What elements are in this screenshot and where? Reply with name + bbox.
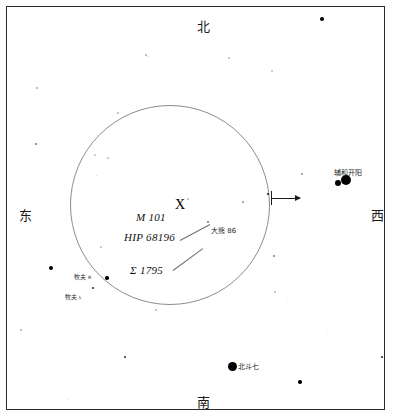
annotation-label-bootes-kappa: 牧夫 κ <box>74 274 91 280</box>
cardinal-label-south: 南 <box>197 396 210 409</box>
star-dot <box>301 173 303 175</box>
star-dot <box>122 400 123 401</box>
annotation-label-alcor-mizar: 辅和开阳 <box>334 170 362 177</box>
object-label-m101: M 101 <box>136 212 166 223</box>
star-dot <box>100 246 101 247</box>
star-chart: 北 东 西 南 M 101 HIP 68196 Σ 1795 X 大熊 86辅和… <box>0 0 395 419</box>
star-dot <box>94 154 95 155</box>
star-dot <box>335 180 341 186</box>
star-dot <box>147 56 148 57</box>
drift-arrow-tick <box>271 191 272 205</box>
star-dot <box>273 255 275 257</box>
star-dot <box>320 17 324 21</box>
star-dot <box>271 70 272 71</box>
star-dot <box>35 143 37 145</box>
star-dot <box>96 175 97 176</box>
annotation-label-bootes-iota: 牧夫 ι <box>65 294 81 300</box>
star-dot <box>117 112 118 113</box>
star-dot <box>20 329 21 330</box>
star-dot <box>207 221 209 223</box>
star-dot <box>68 399 69 400</box>
star-dot <box>36 87 37 88</box>
star-dot <box>274 291 275 292</box>
star-dot <box>242 201 244 203</box>
star-dot <box>107 157 108 158</box>
object-label-sigma-1795: Σ 1795 <box>130 265 163 276</box>
field-of-view-circle <box>70 105 270 305</box>
annotation-label-ursa-major-86: 大熊 86 <box>211 228 236 235</box>
target-cross-marker: X <box>175 198 185 212</box>
star-dot <box>187 198 188 199</box>
star-dot <box>330 245 331 246</box>
star-dot <box>246 173 247 174</box>
star-dot <box>289 290 290 291</box>
star-dot <box>327 330 328 331</box>
star-dot <box>224 238 225 239</box>
star-dot <box>287 301 288 302</box>
star-dot <box>155 309 156 310</box>
star-dot <box>228 57 229 58</box>
star-dot <box>298 380 302 384</box>
cardinal-label-east: 东 <box>19 209 32 222</box>
drift-direction-arrow <box>271 198 300 199</box>
cardinal-label-west: 西 <box>371 209 384 222</box>
annotation-label-big-dipper: 北斗七 <box>238 364 259 371</box>
object-label-hip-68196: HIP 68196 <box>124 232 175 243</box>
star-dot <box>228 362 237 371</box>
star-dot <box>205 90 206 91</box>
star-dot <box>105 276 109 280</box>
cardinal-label-north: 北 <box>197 20 210 33</box>
